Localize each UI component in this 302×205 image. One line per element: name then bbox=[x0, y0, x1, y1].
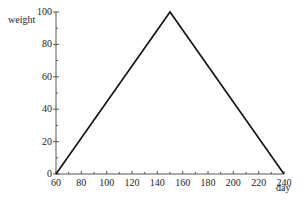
x-tick-label: 100 bbox=[99, 177, 114, 188]
y-tick-label: 80 bbox=[42, 38, 52, 49]
y-tick-label: 100 bbox=[37, 6, 52, 17]
y-tick-label: 20 bbox=[42, 136, 52, 147]
x-tick-label: 80 bbox=[76, 177, 86, 188]
y-tick-label: 60 bbox=[42, 71, 52, 82]
data-line bbox=[56, 12, 284, 174]
x-axis-label: day bbox=[276, 182, 290, 193]
x-tick-label: 160 bbox=[175, 177, 190, 188]
x-tick-label: 140 bbox=[150, 177, 165, 188]
x-tick-label: 120 bbox=[125, 177, 140, 188]
x-tick-label: 200 bbox=[226, 177, 241, 188]
x-tick-label: 180 bbox=[201, 177, 216, 188]
x-tick-label: 220 bbox=[251, 177, 266, 188]
y-tick-label: 0 bbox=[47, 168, 52, 179]
y-tick-label: 40 bbox=[42, 103, 52, 114]
y-axis-label: weight bbox=[8, 14, 35, 25]
x-tick-label: 60 bbox=[51, 177, 61, 188]
